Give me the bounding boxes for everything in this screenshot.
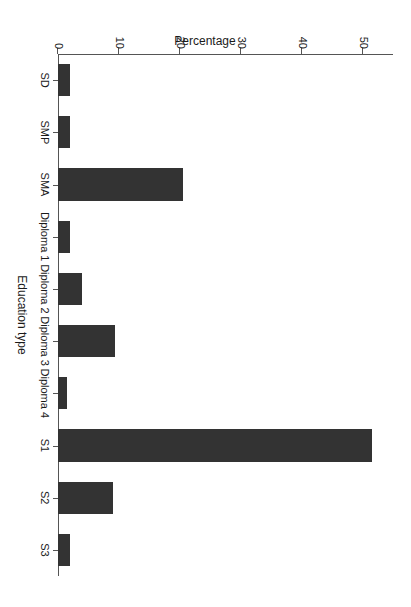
category-tick-mark [53,393,58,394]
bar [58,221,70,253]
category-tick-label: SMP [39,120,50,144]
category-tick-label: SD [39,72,50,87]
bar-chart-figure: 01020304050 SDSMPSMADiploma 1Diploma 2Di… [0,0,411,607]
category-tick-label: Diploma 3 [39,316,50,366]
value-tick-label: 0 [53,43,64,49]
x-axis-title: Education type [15,54,29,576]
y-axis-title: Percentage [175,34,236,48]
bar [58,116,70,148]
category-tick-label: Diploma 1 [39,212,50,262]
category-tick-mark [53,289,58,290]
bar [58,534,70,566]
category-tick-label: S2 [39,491,50,504]
category-tick-mark [53,446,58,447]
bar [58,273,82,305]
category-tick-mark [53,341,58,342]
category-tick-mark [53,498,58,499]
bar [58,168,183,200]
bar [58,429,372,461]
plot-area: 01020304050 SDSMPSMADiploma 1Diploma 2Di… [58,54,393,576]
bar [58,377,67,409]
bar [58,325,115,357]
category-tick-mark [53,237,58,238]
bar [58,64,70,96]
category-tick-mark [53,80,58,81]
value-tick-label: 40 [296,37,307,49]
value-tick-label: 50 [357,37,368,49]
category-tick-label: Diploma 2 [39,264,50,314]
value-axis-line [58,54,393,55]
bar [58,482,113,514]
value-tick-label: 10 [113,37,124,49]
category-tick-mark [53,550,58,551]
category-tick-mark [53,132,58,133]
category-tick-mark [53,185,58,186]
rotated-figure-container: 01020304050 SDSMPSMADiploma 1Diploma 2Di… [0,0,411,607]
value-tick-label: 30 [235,37,246,49]
category-tick-label: Diploma 4 [39,369,50,419]
category-tick-label: S3 [39,543,50,556]
category-tick-label: S1 [39,439,50,452]
category-tick-label: SMA [39,173,50,197]
